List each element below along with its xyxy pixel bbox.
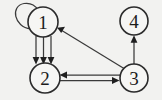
edge-3-to-4 — [131, 35, 138, 64]
node-3[interactable]: 3 — [120, 64, 148, 92]
node-1-label: 1 — [38, 12, 48, 33]
edge-2-to-3 — [60, 77, 120, 84]
node-3-label: 3 — [129, 68, 139, 89]
node-1[interactable]: 1 — [28, 7, 58, 37]
edge-1-to-2-third — [48, 36, 55, 65]
node-4[interactable]: 4 — [120, 7, 148, 35]
graph-figure: 1 2 3 4 — [0, 0, 162, 100]
node-2-label: 2 — [40, 68, 50, 89]
node-4-label: 4 — [129, 11, 139, 32]
edge-1-to-2-first-arrowhead — [33, 57, 40, 65]
edge-3-to-1-diagonal — [57, 27, 124, 69]
edge-3-to-1-path — [61, 30, 124, 69]
edge-1-to-2-second — [40, 37, 47, 65]
edge-3-to-4-arrowhead — [131, 35, 138, 43]
node-2[interactable]: 2 — [30, 63, 60, 93]
edge-2-to-3-arrowhead — [112, 77, 120, 84]
edge-3-to-2 — [60, 72, 121, 79]
graph-canvas: 1 2 3 4 — [0, 0, 162, 100]
edge-1-to-2-first — [33, 36, 40, 65]
